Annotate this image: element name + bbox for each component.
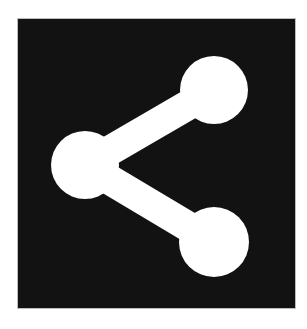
share-node-left [51, 131, 119, 199]
canvas [0, 0, 307, 329]
share-icon [0, 0, 307, 329]
share-node-top-right [180, 56, 248, 124]
share-node-bottom-right [179, 207, 249, 277]
